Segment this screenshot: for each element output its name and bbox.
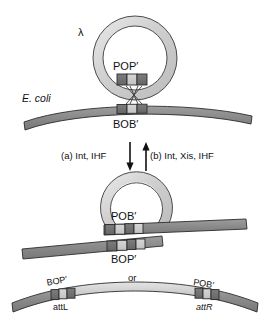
arrow-down-integration [126, 142, 133, 171]
panel-top [24, 16, 252, 130]
bop-prime-site-mid [107, 239, 145, 251]
pop-prime-site [117, 74, 147, 85]
lambda-integration-diagram [0, 0, 270, 332]
arrow-up-excision [142, 142, 149, 171]
attL-site [51, 288, 75, 299]
panel-arrows [126, 142, 149, 171]
prophage-lambda-dna [66, 282, 204, 297]
panel-middle [22, 172, 247, 259]
attR-site [195, 288, 219, 299]
lambda-circle-dna [93, 16, 177, 100]
panel-bottom [12, 282, 258, 312]
bob-prime-site [117, 104, 147, 113]
pob-prime-site [105, 223, 143, 234]
